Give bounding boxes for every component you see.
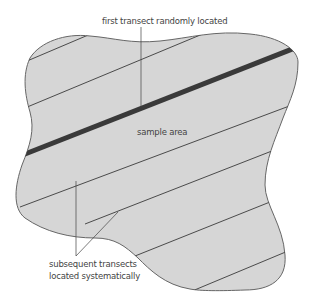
sampling-diagram: first transect randomly located sample a… [0,0,311,297]
sample-area-shape [16,33,298,291]
subsequent-transects-label-line1: subsequent transects [49,259,138,269]
first-transect-label: first transect randomly located [102,16,227,26]
sample-area-label: sample area [137,127,187,137]
subsequent-transects-label-line2: located systematically [49,271,140,281]
